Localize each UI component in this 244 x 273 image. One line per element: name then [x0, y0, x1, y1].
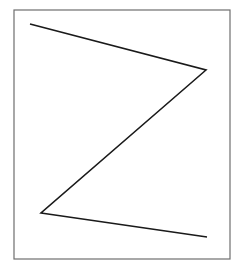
figure-background	[0, 0, 244, 273]
zigzag-figure	[0, 0, 244, 273]
